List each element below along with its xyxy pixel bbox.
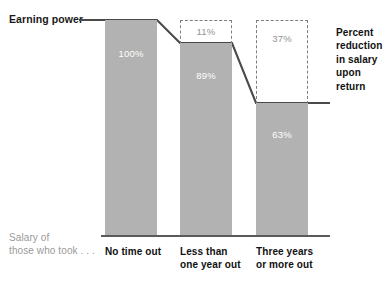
salary-note: Salary of those who took . . .: [9, 231, 104, 257]
reduction-value-less-than-one-year: 11%: [180, 26, 232, 37]
category-less-than-one-year-line-2: one year out: [180, 259, 241, 270]
category-label-less-than-one-year: Less than one year out: [180, 245, 254, 272]
bar-three-years-or-more: [256, 103, 308, 236]
reduction-value-three-years-or-more: 37%: [256, 33, 308, 44]
salary-note-line-2: those who took . . .: [9, 245, 95, 256]
category-label-three-years-or-more: Three years or more out: [256, 245, 330, 272]
category-less-than-one-year-line-1: Less than: [180, 246, 228, 257]
earning-power-bar-chart: Earning power 100% 11% 89% 37% 63% Perce…: [0, 0, 387, 290]
category-three-years-or-more-line-1: Three years: [256, 246, 313, 257]
category-label-no-time-out: No time out: [105, 245, 179, 258]
bar-value-less-than-one-year: 89%: [180, 70, 232, 81]
x-axis-baseline: [101, 235, 330, 237]
bar-value-no-time-out: 100%: [105, 48, 157, 59]
bar-value-three-years-or-more: 63%: [256, 129, 308, 140]
earning-power-label: Earning power: [9, 13, 83, 25]
reduction-annotation: Percent reduction in salary upon return: [336, 26, 387, 93]
category-three-years-or-more-line-2: or more out: [256, 259, 313, 270]
category-no-time-out-line-1: No time out: [105, 246, 161, 257]
salary-note-line-1: Salary of: [9, 232, 49, 243]
